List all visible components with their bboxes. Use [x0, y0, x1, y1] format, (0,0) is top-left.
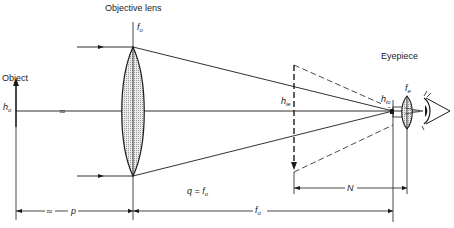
q-equals-fo-label: q = fo [187, 186, 208, 199]
fe-sub: e [408, 88, 411, 94]
objective-lens-label: Objective lens [105, 3, 162, 13]
distance-N-label: N [347, 183, 354, 193]
distance-fo-label: fo [255, 205, 261, 218]
q-sub: o [205, 191, 208, 197]
eyepiece-lens [402, 96, 423, 194]
fo-sub: o [140, 27, 143, 33]
objective-lens [122, 22, 145, 220]
telescope-ray-diagram: ≈ [0, 0, 454, 228]
dfo-sub: o [258, 210, 261, 216]
object-arrow [13, 78, 19, 127]
dimension-p-break: ≈ [46, 207, 53, 216]
q-main: q = f [187, 186, 205, 196]
hie-sub: ie [286, 101, 291, 107]
virtual-image [291, 65, 393, 194]
eyepiece-label: Eyepiece [381, 51, 418, 61]
eyepiece-focal-label: fe [405, 83, 411, 96]
image-height-eyepiece-label: hio [381, 94, 391, 107]
dimension-fo [133, 205, 393, 217]
refracted-ray-top [133, 47, 393, 111]
hio-sub: io [386, 99, 391, 105]
ho-sub: o [8, 107, 11, 113]
objective-focal-label: fo [137, 22, 143, 35]
eye-icon [422, 91, 450, 130]
object-label: Object [2, 73, 28, 83]
object-height-label: ho [3, 102, 11, 115]
axis-break-symbol: ≈ [59, 107, 66, 116]
distance-p-label: p [71, 206, 76, 216]
intermediate-image-height-label: hie [281, 96, 291, 109]
